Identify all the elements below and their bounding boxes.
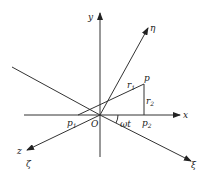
eta-axis — [100, 28, 148, 115]
segment-r2-label: r2 — [146, 96, 154, 107]
zeta-axis-label: ζ — [26, 159, 32, 169]
y-axis-label: y — [87, 12, 94, 22]
origin-label: O — [91, 119, 99, 129]
z-zeta-axis — [27, 115, 100, 150]
point-p2-label: p2 — [142, 118, 152, 129]
angle-arc — [116, 115, 118, 123]
xi-axis-back — [12, 67, 100, 115]
coordinate-diagram: y x η z ζ ξ O p p1 p2 r1 r2 ωt — [0, 0, 206, 178]
point-p-label: p — [144, 73, 150, 83]
segment-r1-label: r1 — [127, 80, 135, 91]
z-axis-label: z — [16, 146, 22, 156]
x-axis-label: x — [183, 110, 188, 120]
eta-axis-label: η — [150, 23, 156, 33]
xi-axis-label: ξ — [191, 160, 197, 170]
angle-omega-t-label: ωt — [120, 119, 131, 129]
point-p1-label: p1 — [67, 118, 77, 129]
